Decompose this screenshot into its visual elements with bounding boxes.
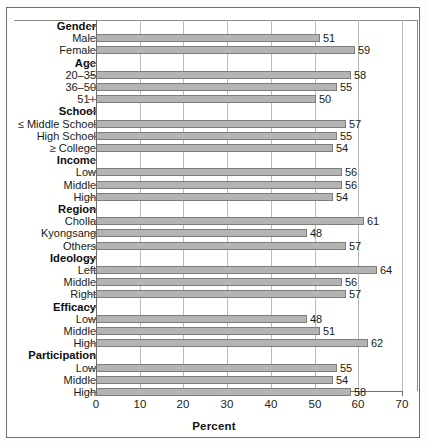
y-tick <box>88 75 96 76</box>
group-header-row: Income <box>0 154 428 166</box>
category-label: Right <box>0 288 96 300</box>
bar <box>97 229 307 237</box>
bar <box>97 278 342 286</box>
y-tick <box>88 270 96 271</box>
bar-value-label: 48 <box>310 314 322 325</box>
bar-row: Low48 <box>0 313 428 325</box>
bar-value-label: 56 <box>345 167 357 178</box>
group-label: Income <box>0 154 96 166</box>
y-tick <box>88 87 96 88</box>
bar-row: Middle54 <box>0 374 428 386</box>
y-tick <box>88 221 96 222</box>
bar-row: Kyongsang48 <box>0 227 428 239</box>
bar-value-label: 61 <box>367 216 379 227</box>
category-label: 20–35 <box>0 69 96 81</box>
bar <box>97 266 377 274</box>
bar <box>97 83 337 91</box>
bar-row: Low55 <box>0 362 428 374</box>
group-label: School <box>0 105 96 117</box>
bar-value-label: 54 <box>336 375 348 386</box>
group-label: Region <box>0 203 96 215</box>
y-tick <box>88 124 96 125</box>
bar <box>97 120 346 128</box>
bar <box>97 95 316 103</box>
bar-row: Middle51 <box>0 325 428 337</box>
bar <box>97 217 364 225</box>
y-tick <box>88 331 96 332</box>
bar-value-label: 51 <box>323 33 335 44</box>
bar-row: ≤ Middle School57 <box>0 118 428 130</box>
group-label: Gender <box>0 20 96 32</box>
category-label: Middle <box>0 179 96 191</box>
group-header-row: Participation <box>0 349 428 361</box>
y-tick <box>88 209 96 210</box>
bar <box>97 290 346 298</box>
y-tick <box>88 343 96 344</box>
category-label: High <box>0 386 96 398</box>
bar-row: High54 <box>0 191 428 203</box>
y-tick <box>88 26 96 27</box>
bar-row: ≥ College54 <box>0 142 428 154</box>
bar <box>97 168 342 176</box>
bar <box>97 46 355 54</box>
bar-row: Middle56 <box>0 179 428 191</box>
bar-value-label: 57 <box>349 119 361 130</box>
y-tick <box>88 160 96 161</box>
bar-row: Male51 <box>0 32 428 44</box>
bar-row: 51+50 <box>0 93 428 105</box>
category-label: Low <box>0 313 96 325</box>
chart-figure: 010203040506070 GenderMale51Female59Age2… <box>0 0 428 446</box>
x-tick-label-70: 70 <box>382 398 422 410</box>
bar-value-label: 62 <box>371 338 383 349</box>
bar <box>97 132 337 140</box>
bar <box>97 181 342 189</box>
bar <box>97 71 351 79</box>
y-tick <box>88 197 96 198</box>
bar-row: Others57 <box>0 240 428 252</box>
group-label: Age <box>0 57 96 69</box>
y-tick <box>88 368 96 369</box>
y-tick <box>88 63 96 64</box>
category-label: Cholla <box>0 215 96 227</box>
bar-value-label: 54 <box>336 192 348 203</box>
category-label: Low <box>0 166 96 178</box>
bar-value-label: 58 <box>354 387 366 398</box>
y-tick <box>88 246 96 247</box>
bar <box>97 34 320 42</box>
group-label: Ideology <box>0 252 96 264</box>
bar-row: Low56 <box>0 166 428 178</box>
bar-value-label: 54 <box>336 143 348 154</box>
bar <box>97 364 337 372</box>
y-tick <box>88 172 96 173</box>
group-label: Participation <box>0 349 96 361</box>
category-label: ≤ Middle School <box>0 118 96 130</box>
x-tick-label-40: 40 <box>251 398 291 410</box>
y-tick <box>88 380 96 381</box>
bar <box>97 315 307 323</box>
y-tick <box>88 294 96 295</box>
y-tick <box>88 307 96 308</box>
bar <box>97 242 346 250</box>
bar-row: High58 <box>0 386 428 398</box>
y-tick <box>88 50 96 51</box>
category-label: Middle <box>0 325 96 337</box>
bar-value-label: 57 <box>349 241 361 252</box>
y-tick <box>88 185 96 186</box>
bar <box>97 339 368 347</box>
group-label: Efficacy <box>0 301 96 313</box>
y-tick <box>88 38 96 39</box>
bar-value-label: 51 <box>323 326 335 337</box>
category-label: Kyongsang <box>0 227 96 239</box>
bar-row: High62 <box>0 337 428 349</box>
bar-row: 20–3558 <box>0 69 428 81</box>
y-tick <box>88 392 96 393</box>
bar-row: Cholla61 <box>0 215 428 227</box>
bar-value-label: 56 <box>345 277 357 288</box>
x-tick-label-50: 50 <box>295 398 335 410</box>
bar-value-label: 59 <box>358 45 370 56</box>
bar-row: 36–5055 <box>0 81 428 93</box>
x-axis-title: Percent <box>0 420 428 432</box>
y-tick <box>88 282 96 283</box>
category-label: 36–50 <box>0 81 96 93</box>
category-label: Low <box>0 362 96 374</box>
